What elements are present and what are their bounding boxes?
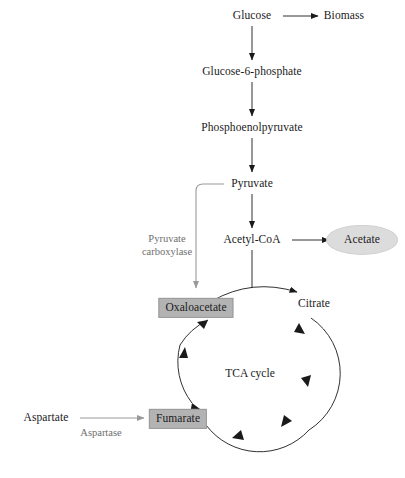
- node-aspartate: Aspartate: [24, 411, 69, 424]
- edge-pyruvate-to-oxaloacetate: [196, 184, 224, 288]
- cycle-arrowhead-oxaloacetate-side: [197, 320, 208, 329]
- enzyme-label-pyruvate-carboxylase: Pyruvate carboxylase: [142, 233, 192, 259]
- pathway-diagram: Glucose Biomass Glucose-6-phosphate Phos…: [0, 0, 405, 478]
- node-acetyl-coa: Acetyl-CoA: [223, 233, 280, 246]
- cycle-arrowhead-bottom: [232, 430, 244, 440]
- cycle-arrowhead-lower-right: [281, 415, 292, 427]
- node-oxaloacetate: Oxaloacetate: [158, 298, 233, 318]
- enzyme-label-aspartase: Aspartase: [80, 427, 121, 440]
- node-fumarate: Fumarate: [149, 409, 207, 429]
- node-acetate: Acetate: [326, 225, 398, 255]
- node-citrate: Citrate: [298, 297, 330, 310]
- node-glucose: Glucose: [233, 9, 271, 22]
- edge-acetylcoa-to-citrate-junction: [212, 250, 297, 301]
- tca-cycle-ring: [178, 318, 340, 452]
- cycle-arrowhead-right: [301, 375, 311, 387]
- node-glucose-6-phosphate: Glucose-6-phosphate: [202, 65, 302, 78]
- tca-cycle-label: TCA cycle: [225, 367, 275, 379]
- cycle-arrowhead-citrate-side: [294, 323, 305, 334]
- node-phosphoenolpyruvate: Phosphoenolpyruvate: [201, 121, 303, 134]
- cycle-arrowhead-left: [179, 347, 188, 358]
- node-pyruvate: Pyruvate: [231, 177, 273, 190]
- node-biomass: Biomass: [324, 9, 364, 22]
